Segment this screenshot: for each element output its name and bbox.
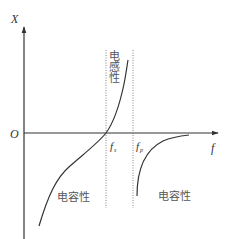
capacitive-region-label-right: 电容性: [158, 189, 191, 203]
reactance-curve-right: [137, 135, 189, 196]
fs-subscript: s: [114, 147, 117, 153]
y-axis-label: X: [10, 12, 19, 26]
inductive-region-label: 电感性: [107, 50, 121, 84]
fp-subscript: p: [139, 147, 143, 153]
capacitive-region-label-left: 电容性: [57, 190, 90, 204]
reactance-frequency-diagram: X O f f s f p 电感性 电容性 电容性: [0, 0, 229, 239]
x-axis-label: f: [211, 141, 216, 155]
fs-label: f s: [110, 140, 117, 153]
fp-label: f p: [136, 140, 143, 153]
origin-label: O: [10, 127, 19, 141]
